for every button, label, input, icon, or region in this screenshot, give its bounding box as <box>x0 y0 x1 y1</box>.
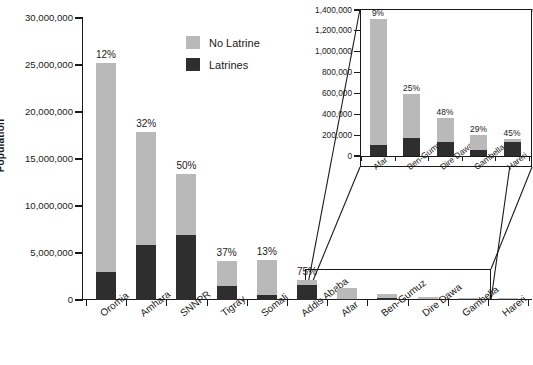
inset-y-tick-label: 1,400,000 <box>315 6 352 14</box>
inset-y-tick-mark <box>354 72 361 73</box>
inset-x-tick-mark <box>361 156 362 161</box>
inset-y-tick-label: 0 <box>347 152 352 160</box>
bar-segment-no-latrine <box>176 174 196 235</box>
bar-value-label: 12% <box>96 49 116 60</box>
y-tick-label: 20,000,000 <box>25 107 73 116</box>
bar-segment-latrines <box>136 245 156 300</box>
x-tick-mark <box>408 300 409 306</box>
legend-item-latrines: Latrines <box>186 58 260 71</box>
bar-afar <box>337 288 357 300</box>
x-tick-mark <box>367 300 368 306</box>
inset-bar-segment-latrines <box>370 145 387 156</box>
x-tick-mark <box>207 300 208 306</box>
inset-y-tick-label: 200,000 <box>322 131 352 139</box>
y-tick-mark <box>75 17 83 18</box>
y-tick-label: 30,000,000 <box>25 13 73 22</box>
inset-x-tick-mark <box>428 156 429 161</box>
x-tick-mark <box>166 300 167 306</box>
bar-amhara <box>136 132 156 300</box>
bar-value-label: 75% <box>297 266 317 277</box>
legend: No Latrine Latrines <box>186 36 260 80</box>
y-tick-label: 5,000,000 <box>30 248 73 257</box>
inset-y-tick-label: 1,200,000 <box>315 26 352 34</box>
inset-y-tick-mark <box>354 135 361 136</box>
inset-bar-segment-no-latrine <box>437 118 454 142</box>
inset-x-tick-mark <box>462 156 463 161</box>
bar-segment-no-latrine <box>337 288 357 299</box>
bar-segment-no-latrine <box>96 63 116 272</box>
y-tick-mark <box>75 299 83 300</box>
y-tick-mark <box>75 111 83 112</box>
y-tick-mark <box>75 252 83 253</box>
bar-segment-latrines <box>176 235 196 300</box>
inset-bar-value-label: 29% <box>470 124 487 134</box>
legend-item-no-latrine: No Latrine <box>186 36 260 49</box>
inset-bar-value-label: 48% <box>437 107 454 117</box>
bar-somali <box>257 260 277 300</box>
x-tick-mark <box>448 300 449 306</box>
bar-value-label: 37% <box>217 247 237 258</box>
inset-x-tick-mark <box>395 156 396 161</box>
inset-y-tick-label: 1,000,000 <box>315 47 352 55</box>
x-tick-mark <box>528 300 529 306</box>
bar-snnpr <box>176 174 196 300</box>
inset-bar-ben-gumuz <box>403 94 420 156</box>
legend-swatch-no-latrine <box>186 36 200 49</box>
inset-y-tick-label: 600,000 <box>322 89 352 97</box>
inset-y-axis-tick-labels: 1,400,0001,200,0001,000,000800,000600,00… <box>280 0 352 175</box>
x-tick-mark <box>126 300 127 306</box>
y-tick-label: 25,000,000 <box>25 60 73 69</box>
inset-bar-afar <box>370 19 387 156</box>
bar-segment-no-latrine <box>257 260 277 295</box>
bar-oromia <box>96 63 116 300</box>
x-tick-mark <box>287 300 288 306</box>
y-tick-label: 10,000,000 <box>25 201 73 210</box>
bar-segment-no-latrine <box>136 132 156 246</box>
x-tick-label: Hareri <box>500 293 528 318</box>
x-tick-mark <box>86 300 87 306</box>
bar-segment-no-latrine <box>217 261 237 287</box>
legend-label-latrines: Latrines <box>209 59 248 71</box>
inset-bar-segment-no-latrine <box>403 94 420 137</box>
y-tick-label: 0 <box>68 295 73 304</box>
bar-segment-latrines <box>96 272 116 300</box>
inset-y-tick-label: 400,000 <box>322 110 352 118</box>
inset-x-tick-mark <box>529 156 530 161</box>
x-tick-mark <box>327 300 328 306</box>
x-tick-mark <box>488 300 489 306</box>
x-tick-mark <box>247 300 248 306</box>
inset-bar-segment-no-latrine <box>470 135 487 150</box>
bar-value-label: 32% <box>136 118 156 129</box>
inset-bar-value-label: 45% <box>504 128 521 138</box>
bar-tigray <box>217 261 237 300</box>
y-tick-label: 15,000,000 <box>25 154 73 163</box>
inset-y-tick-mark <box>354 9 361 10</box>
bar-value-label: 13% <box>257 246 277 257</box>
bar-value-label: 50% <box>176 160 196 171</box>
y-tick-mark <box>75 158 83 159</box>
legend-swatch-latrines <box>186 58 200 71</box>
inset-bar-value-label: 9% <box>372 8 384 18</box>
inset-y-tick-mark <box>354 114 361 115</box>
legend-label-no-latrine: No Latrine <box>209 37 260 49</box>
y-tick-mark <box>75 64 83 65</box>
inset-x-tick-mark <box>495 156 496 161</box>
chart-figure: Population 30,000,00025,000,00020,000,00… <box>0 0 533 365</box>
inset-bar-value-label: 25% <box>403 83 420 93</box>
inset-y-tick-mark <box>354 51 361 52</box>
y-tick-mark <box>75 205 83 206</box>
inset-y-tick-label: 800,000 <box>322 68 352 76</box>
inset-y-tick-mark <box>354 93 361 94</box>
inset-y-tick-mark <box>354 30 361 31</box>
y-axis-tick-labels: 30,000,00025,000,00020,000,00015,000,000… <box>0 0 73 320</box>
inset-bar-dire-dawa <box>437 118 454 156</box>
inset-bar-segment-no-latrine <box>370 19 387 145</box>
x-tick-label: Afar <box>339 299 360 319</box>
